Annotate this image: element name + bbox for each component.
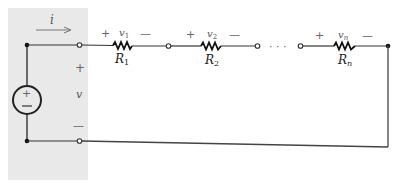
svg-text:+: + — [22, 87, 31, 100]
terminal-rn-start — [298, 44, 303, 49]
resistor-r1-label: R1 — [114, 52, 129, 67]
resistor-rn-icon — [334, 43, 355, 50]
svg-text:v1: v1 — [119, 27, 129, 40]
resistor-r2-voltage: + v2 — — [186, 28, 240, 41]
svg-text:+: + — [75, 61, 85, 75]
resistor-r2-icon — [201, 43, 221, 50]
terminal-top — [77, 43, 82, 48]
svg-text:+: + — [315, 29, 324, 42]
resistor-rn-voltage: + vn — — [315, 29, 373, 42]
resistor-r1-icon — [113, 42, 132, 49]
svg-text:—: — — [140, 27, 151, 40]
svg-text:—: — — [362, 29, 373, 42]
svg-text:—: — — [229, 28, 240, 41]
current-label: i — [50, 13, 54, 27]
svg-text:v2: v2 — [207, 28, 217, 41]
bottom-return-wire — [82, 141, 388, 147]
resistor-rn-label: Rn — [337, 53, 352, 68]
resistor-r1-voltage: + v1 — — [101, 27, 151, 40]
terminal-r1-r2 — [166, 44, 171, 49]
svg-text:v: v — [76, 88, 83, 101]
terminal-bottom — [77, 139, 82, 144]
svg-text:+: + — [186, 28, 195, 41]
svg-text:vn: vn — [338, 29, 349, 42]
terminal-r2-end — [255, 44, 260, 49]
ellipsis: · · · — [269, 40, 286, 53]
svg-text:—: — — [73, 119, 84, 132]
circuit-diagram: i + · · · R1 R2 Rn + v1 — + v2 — + — [0, 0, 397, 190]
svg-text:+: + — [101, 27, 110, 40]
resistor-r2-label: R2 — [204, 53, 219, 68]
